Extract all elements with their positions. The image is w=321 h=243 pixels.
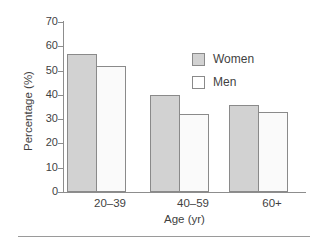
bar-women-1 xyxy=(150,95,180,192)
bar-women-2 xyxy=(229,105,259,192)
bar-women-0 xyxy=(67,54,97,192)
legend-item-women: Women xyxy=(192,50,254,68)
legend: Women Men xyxy=(192,50,254,96)
x-category-label: 20–39 xyxy=(70,197,150,210)
legend-label-men: Men xyxy=(213,73,236,91)
bar-chart: 706050403020100 Percentage (%) 20–3940–5… xyxy=(0,0,321,232)
y-tick-mark xyxy=(58,192,63,193)
x-axis-line xyxy=(63,192,306,193)
bars-group xyxy=(0,0,321,192)
x-axis-title: Age (yr) xyxy=(63,213,306,225)
bar-men-0 xyxy=(96,66,126,192)
x-category-label: 60+ xyxy=(232,197,312,210)
x-category-label: 40–59 xyxy=(153,197,233,210)
bar-men-2 xyxy=(258,112,288,192)
legend-swatch-men-icon xyxy=(192,76,205,89)
footer-divider xyxy=(18,236,310,237)
legend-item-men: Men xyxy=(192,73,254,91)
bar-men-1 xyxy=(179,114,209,192)
legend-label-women: Women xyxy=(213,50,254,68)
legend-swatch-women-icon xyxy=(192,53,205,66)
